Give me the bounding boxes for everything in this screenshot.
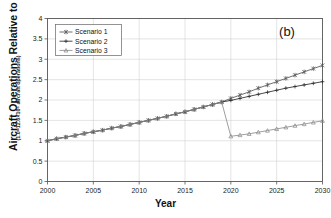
panel-label: (b) — [279, 24, 295, 39]
legend-item-1[interactable]: Scenario 1 — [75, 28, 108, 35]
x-tick-label: 2005 — [86, 187, 102, 194]
x-tick-label: 2015 — [177, 187, 193, 194]
x-tick-label: 2025 — [269, 187, 285, 194]
y-tick-label: 0.5 — [33, 158, 43, 165]
x-tick-label: 2020 — [223, 187, 239, 194]
legend-item-2[interactable]: Scenario 2 — [75, 38, 108, 45]
x-tick-label: 2010 — [131, 187, 147, 194]
y-tick-label: 2 — [39, 96, 43, 103]
y-tick-label: 2.5 — [33, 76, 43, 83]
y-tick-label: 1 — [39, 137, 43, 144]
y-tick-label: 3 — [39, 56, 43, 63]
y-tick-label: 4 — [39, 15, 43, 22]
y-tick-label: 3.5 — [33, 35, 43, 42]
chart-legend[interactable]: Scenario 1Scenario 2Scenario 3 — [56, 25, 122, 56]
y-tick-label: 0 — [39, 178, 43, 185]
chart-plot-area: 00.511.522.533.54 2000200520102015202020… — [0, 0, 331, 218]
y-tick-labels-group: 00.511.522.533.54 — [33, 15, 43, 185]
y-tick-label: 1.5 — [33, 117, 43, 124]
x-tick-label: 2030 — [315, 187, 331, 194]
x-tick-labels-group: 2000200520102015202020252030 — [40, 187, 331, 194]
legend-item-3[interactable]: Scenario 3 — [75, 47, 108, 54]
x-tick-label: 2000 — [40, 187, 56, 194]
chart-figure: Aircraft Operations Relative to 2000 (1.… — [0, 0, 331, 218]
